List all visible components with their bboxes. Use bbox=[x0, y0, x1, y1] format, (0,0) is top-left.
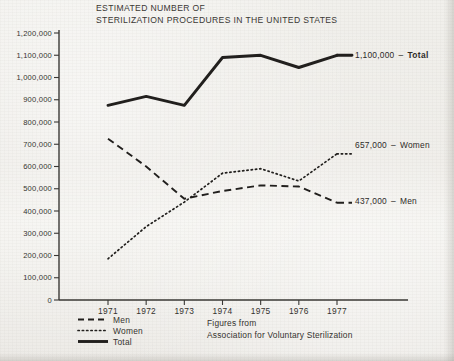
source-note-line-1: Figures from bbox=[207, 318, 427, 330]
y-axis-tick-label: 200,000 bbox=[0, 251, 52, 260]
y-axis-tick-label: 0 bbox=[0, 296, 52, 305]
y-axis-ticks bbox=[54, 33, 59, 300]
end-label-men: 437,000–Men bbox=[355, 196, 417, 206]
end-label-total-value: 1,100,000 bbox=[355, 50, 395, 60]
end-label-women-dash: – bbox=[387, 140, 400, 150]
legend-label-total: Total bbox=[113, 337, 132, 347]
y-axis-tick-label: 300,000 bbox=[0, 229, 52, 238]
end-label-men-value: 437,000 bbox=[355, 196, 387, 206]
x-axis-tick-label: 1977 bbox=[317, 306, 357, 316]
series-line-men bbox=[108, 139, 337, 203]
end-label-men-dash: – bbox=[387, 196, 400, 206]
x-axis-tick-label: 1972 bbox=[126, 306, 166, 316]
source-note: Figures from Association for Voluntary S… bbox=[207, 318, 427, 341]
x-axis-ticks bbox=[108, 300, 337, 305]
legend-swatches bbox=[78, 320, 108, 342]
x-axis-tick-label: 1975 bbox=[241, 306, 281, 316]
y-axis-tick-label: 1,100,000 bbox=[0, 51, 52, 60]
chart-page: ESTIMATED NUMBER OF STERILIZATION PROCED… bbox=[0, 0, 454, 361]
end-label-women-name: Women bbox=[400, 140, 430, 150]
y-axis-tick-label: 500,000 bbox=[0, 184, 52, 193]
end-label-total-dash: – bbox=[395, 50, 408, 60]
y-axis-tick-label: 1,200,000 bbox=[0, 29, 52, 38]
source-note-line-2: Association for Voluntary Sterilization bbox=[207, 330, 427, 342]
x-axis-tick-label: 1976 bbox=[279, 306, 319, 316]
y-axis-tick-label: 800,000 bbox=[0, 118, 52, 127]
y-axis-tick-label: 900,000 bbox=[0, 95, 52, 104]
x-axis-tick-label: 1973 bbox=[164, 306, 204, 316]
end-label-women: 657,000–Women bbox=[355, 140, 430, 150]
x-axis-tick-label: 1974 bbox=[203, 306, 243, 316]
series-line-total bbox=[108, 55, 337, 105]
y-axis-tick-label: 100,000 bbox=[0, 273, 52, 282]
y-axis-tick-label: 1,000,000 bbox=[0, 73, 52, 82]
legend-label-men: Men bbox=[113, 315, 130, 325]
y-axis-tick-label: 600,000 bbox=[0, 162, 52, 171]
y-axis-tick-label: 400,000 bbox=[0, 207, 52, 216]
series-line-women bbox=[108, 154, 337, 259]
end-label-total-name: Total bbox=[407, 50, 428, 60]
y-axis-tick-label: 700,000 bbox=[0, 140, 52, 149]
end-label-men-name: Men bbox=[400, 196, 417, 206]
chart-axes bbox=[59, 30, 408, 300]
legend-label-women: Women bbox=[113, 326, 143, 336]
end-label-women-value: 657,000 bbox=[355, 140, 387, 150]
end-label-total: 1,100,000–Total bbox=[355, 50, 429, 60]
